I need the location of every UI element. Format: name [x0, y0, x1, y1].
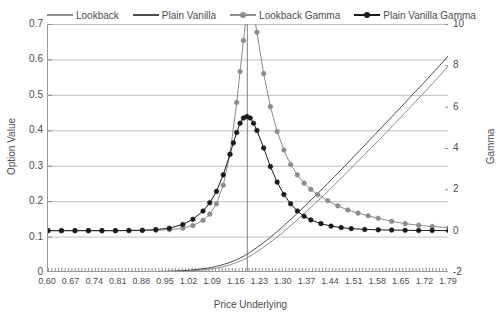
series-marker — [73, 228, 78, 233]
y-axis-right-tick-label: 10 — [453, 19, 487, 29]
series-marker — [309, 187, 314, 192]
series-marker — [346, 208, 351, 213]
series-marker — [86, 228, 91, 233]
legend-key-icon — [47, 10, 73, 20]
series-line — [48, 117, 448, 231]
legend-item[interactable]: Lookback Gamma — [230, 10, 340, 21]
series-marker — [127, 228, 132, 233]
series-marker — [221, 173, 226, 178]
y-axis-right-tick-label: 4 — [453, 143, 487, 153]
series-marker — [154, 227, 159, 232]
legend-item[interactable]: Plain Vanilla — [133, 10, 216, 21]
legend-item-label: Plain Vanilla — [162, 10, 216, 21]
series-marker — [356, 211, 361, 216]
series-marker — [268, 104, 273, 109]
series-marker — [238, 69, 243, 74]
series-marker — [288, 202, 293, 207]
series-marker — [302, 181, 307, 186]
y-axis-left-tick-label: 0.6 — [9, 54, 43, 64]
series-marker — [201, 218, 206, 223]
series-line — [48, 65, 448, 272]
series-marker — [295, 209, 300, 214]
series-marker — [403, 221, 408, 226]
series-marker — [261, 71, 266, 76]
series-marker — [207, 212, 212, 217]
series-marker — [228, 152, 233, 157]
legend-key-icon — [354, 10, 380, 20]
series-marker — [191, 223, 196, 228]
y-axis-right-title: Gamma — [485, 97, 496, 197]
y-axis-right-tick-label: 8 — [453, 60, 487, 70]
series-marker — [48, 228, 50, 233]
series-marker — [231, 141, 236, 146]
series-marker — [288, 162, 293, 167]
series-marker — [140, 228, 145, 233]
series-marker — [366, 213, 371, 218]
series-marker — [315, 192, 320, 197]
series-marker — [389, 228, 394, 233]
series-marker — [268, 164, 273, 169]
y-axis-left-title: Option Value — [6, 97, 17, 197]
y-axis-right-tick-label: 6 — [453, 102, 487, 112]
series-marker — [282, 192, 287, 197]
series-marker — [275, 180, 280, 185]
series-marker — [255, 128, 260, 133]
series-marker — [430, 228, 435, 233]
series-marker — [248, 116, 253, 121]
series-marker — [295, 173, 300, 178]
chart-legend: LookbackPlain VanillaLookback GammaPlain… — [47, 8, 451, 22]
series-marker — [309, 218, 314, 223]
series-marker — [180, 222, 185, 227]
y-axis-left-tick-label: 0.7 — [9, 19, 43, 29]
x-axis-title: Price Underlying — [0, 299, 501, 310]
series-marker — [302, 214, 307, 219]
legend-key-icon — [133, 10, 159, 20]
series-marker — [376, 228, 381, 233]
x-axis-tick-label: 1.79 — [431, 276, 465, 286]
series-marker — [100, 228, 105, 233]
y-axis-left-tick-label: 0.1 — [9, 232, 43, 242]
series-marker — [191, 217, 196, 222]
series-marker — [275, 129, 280, 134]
series-marker — [376, 216, 381, 221]
plot-area — [47, 24, 448, 272]
series-marker — [282, 148, 287, 153]
plot-svg — [48, 24, 448, 272]
series-plain-vanilla-gamma — [48, 114, 448, 233]
legend-item-label: Lookback Gamma — [259, 10, 340, 21]
legend-item[interactable]: Lookback — [47, 10, 119, 21]
series-marker — [207, 200, 212, 205]
series-lookback — [48, 65, 448, 272]
series-marker — [238, 121, 243, 126]
series-marker — [241, 38, 246, 43]
series-marker — [349, 226, 354, 231]
series-marker — [389, 219, 394, 224]
series-line — [48, 24, 448, 231]
chart-container: LookbackPlain VanillaLookback GammaPlain… — [0, 0, 501, 321]
series-marker — [234, 100, 239, 105]
series-marker — [255, 30, 260, 35]
y-axis-right-tick-label: 0 — [453, 226, 487, 236]
series-marker — [339, 225, 344, 230]
series-marker — [59, 228, 64, 233]
series-marker — [214, 189, 219, 194]
series-marker — [416, 223, 421, 228]
series-line — [48, 55, 448, 272]
series-marker — [251, 121, 256, 126]
y-axis-right-tick-label: 2 — [453, 184, 487, 194]
series-marker — [113, 228, 118, 233]
y-axis-left-tick-label: 0.2 — [9, 196, 43, 206]
series-marker — [214, 202, 219, 207]
legend-key-icon — [230, 10, 256, 20]
series-marker — [329, 224, 334, 229]
series-marker — [261, 146, 266, 151]
series-marker — [325, 198, 330, 203]
legend-item-label: Lookback — [76, 10, 119, 21]
series-marker — [416, 228, 421, 233]
series-marker — [234, 130, 239, 135]
series-marker — [319, 221, 324, 226]
series-marker — [167, 226, 172, 231]
series-marker — [403, 228, 408, 233]
series-marker — [201, 209, 206, 214]
series-marker — [221, 183, 226, 188]
